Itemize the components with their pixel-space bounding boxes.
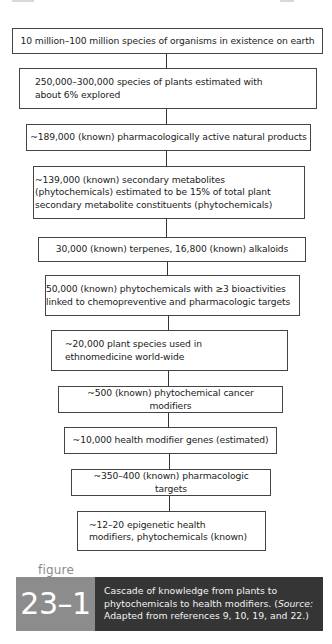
cascade-box-3: ~189,000 (known) pharmacologically activ…: [26, 124, 311, 151]
cascade-box-text: ~189,000 (known) pharmacologically activ…: [27, 131, 310, 144]
caption-source-text: Adapted from references 9, 10, 19, and 2…: [104, 610, 309, 621]
running-head-fragment: [280, 0, 294, 2]
cascade-box-5: 30,000 (known) terpenes, 16,800 (known) …: [38, 237, 306, 262]
cascade-box-text: 30,000 (known) terpenes, 16,800 (known) …: [39, 243, 305, 256]
page-header-cropped: [0, 0, 332, 4]
cascade-box-text: 10 million–100 million species of organi…: [13, 35, 322, 48]
cascade-box-2: 250,000–300,000 species of plants estima…: [19, 68, 317, 109]
cascade-box-text: ~12–20 epigenetic health modifiers, phyt…: [78, 519, 265, 544]
cascade-box-7: ~20,000 plant species used in ethnomedic…: [51, 330, 288, 371]
cascade-box-text: 250,000–300,000 species of plants estima…: [20, 76, 316, 101]
cascade-box-text: ~500 (known) phytochemical cancer modifi…: [59, 387, 282, 412]
figure-label: figure: [38, 563, 74, 577]
cascade-box-text: 50,000 (known) phytochemicals with ≥3 bi…: [46, 283, 299, 308]
cascade-box-4: ~139,000 (known) secondary metabolites (…: [33, 166, 305, 219]
connector-4-5: [166, 219, 167, 237]
connector-2-3: [166, 109, 167, 124]
figure-caption: Cascade of knowledge from plants to phyt…: [95, 577, 323, 631]
connector-10-11: [169, 496, 170, 511]
cascade-box-6: 50,000 (known) phytochemicals with ≥3 bi…: [45, 275, 300, 316]
connector-6-7: [168, 316, 169, 330]
page-number-fragment: [12, 0, 34, 2]
connector-9-10: [169, 454, 170, 469]
connector-8-9: [168, 413, 169, 427]
cascade-box-8: ~500 (known) phytochemical cancer modifi…: [58, 386, 283, 413]
cascade-box-text: ~350–400 (known) pharmacologic targets: [72, 470, 270, 495]
cascade-box-text: ~20,000 plant species used in ethnomedic…: [52, 338, 287, 363]
connector-7-8: [168, 371, 169, 386]
connector-3-4: [166, 151, 167, 166]
cascade-box-1: 10 million–100 million species of organi…: [12, 28, 323, 54]
connector-1-2: [166, 54, 167, 68]
cascade-box-11: ~12–20 epigenetic health modifiers, phyt…: [77, 511, 266, 551]
figure-number: 23–1: [16, 577, 95, 631]
connector-5-6: [167, 262, 168, 275]
cascade-box-10: ~350–400 (known) pharmacologic targets: [71, 469, 271, 496]
cascade-box-text: ~139,000 (known) secondary metabolites (…: [34, 174, 304, 212]
caption-main-text: Cascade of knowledge from plants to phyt…: [104, 585, 278, 609]
cascade-box-9: ~10,000 health modifier genes (estimated…: [64, 427, 277, 454]
cascade-box-text: ~10,000 health modifier genes (estimated…: [65, 434, 276, 447]
caption-source-label: Source:: [278, 598, 313, 609]
